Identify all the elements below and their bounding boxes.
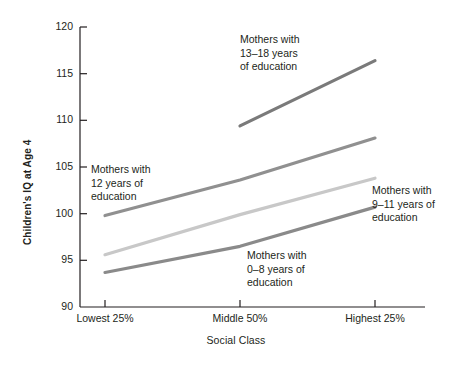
- annotation-0-8-years: Mothers with 0–8 years of education: [247, 249, 307, 290]
- x-axis-title: Social Class: [0, 334, 472, 346]
- y-tick-label-90: 90: [33, 300, 73, 312]
- y-axis-ticks: [80, 27, 87, 260]
- y-tick-label-100: 100: [33, 207, 73, 219]
- y-tick-label-95: 95: [33, 253, 73, 265]
- chart-figure: 120 115 110 105 100 95 90 Lowest 25% Mid…: [0, 0, 472, 367]
- annotation-13-18-years: Mothers with 13–18 years of education: [240, 33, 300, 74]
- x-tick-label-middle: Middle 50%: [180, 312, 300, 324]
- y-tick-label-110: 110: [33, 113, 73, 125]
- y-tick-label-120: 120: [33, 20, 73, 32]
- y-axis-title: Children's IQ at Age 4: [22, 140, 33, 245]
- y-tick-label-115: 115: [33, 67, 73, 79]
- annotation-9-11-years: Mothers with 9–11 years of education: [372, 184, 435, 225]
- y-tick-label-105: 105: [33, 160, 73, 172]
- series-line-0-8-years: [105, 207, 375, 272]
- x-tick-label-highest: Highest 25%: [315, 312, 435, 324]
- annotation-12-years: Mothers with 12 years of education: [91, 163, 151, 204]
- x-tick-label-lowest: Lowest 25%: [45, 312, 165, 324]
- x-axis-ticks: [105, 300, 375, 307]
